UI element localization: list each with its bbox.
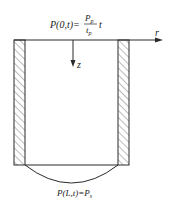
z-axis: z <box>71 40 82 70</box>
z-axis-label: z <box>76 59 81 70</box>
r-axis-label: r <box>155 27 159 38</box>
bottom-meniscus-arc <box>25 165 118 183</box>
top-boundary-condition: P(0,t)= Pp tp t <box>49 13 102 36</box>
right-wall <box>118 40 129 165</box>
fraction-denominator: tp <box>86 25 92 36</box>
svg-text:P(L,t)=Ps: P(L,t)=Ps <box>56 188 93 199</box>
z-axis-arrow-icon <box>71 60 76 67</box>
left-wall <box>14 40 25 165</box>
diagram-canvas: P(0,t)= Pp tp t r z <box>0 0 171 206</box>
svg-text:t: t <box>99 19 102 30</box>
r-axis-arrow-icon <box>155 38 163 43</box>
svg-text:P(0,t)=: P(0,t)= <box>49 19 80 31</box>
bottom-boundary-condition: P(L,t)=Ps <box>56 188 93 199</box>
fraction-numerator: Pp <box>84 13 94 24</box>
